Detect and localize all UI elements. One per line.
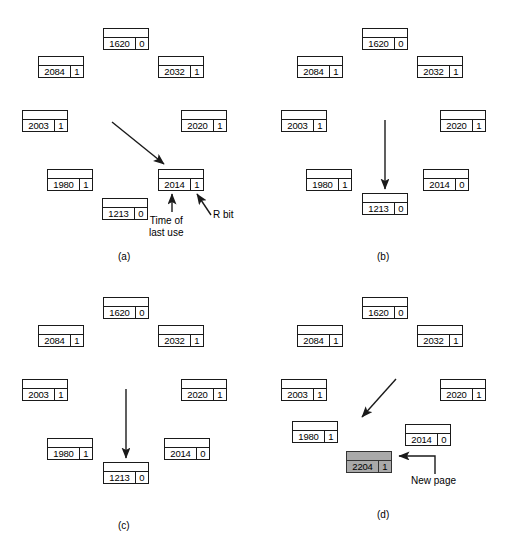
frame-bottom-row: 2084 1 (298, 66, 342, 77)
page-frame-1980: 1980 1 (47, 438, 93, 460)
frame-r-bit-value: 1 (450, 335, 462, 346)
frame-top-row (182, 111, 226, 120)
frame-bottom-row: 2032 1 (159, 66, 203, 77)
frame-top-row (23, 111, 67, 120)
frame-top-row (48, 170, 92, 179)
page-frame-2020: 2020 1 (181, 379, 227, 401)
frame-top-row (182, 380, 226, 389)
frame-time-value: 2084 (39, 66, 71, 77)
frame-r-bit-value: 1 (339, 179, 351, 190)
page-frame-2084: 2084 1 (297, 325, 343, 347)
frame-r-bit-value: 1 (314, 389, 326, 400)
frame-bottom-row: 2003 1 (282, 120, 326, 131)
frame-r-bit-value: 1 (71, 66, 83, 77)
frame-bottom-row: 1980 1 (48, 448, 92, 459)
frame-bottom-row: 1213 0 (103, 208, 147, 219)
r-bit-label: R bit (213, 209, 234, 221)
frame-r-bit-value: 1 (191, 335, 203, 346)
panel-label-d: (d) (377, 509, 389, 521)
frame-r-bit-value: 0 (136, 38, 148, 49)
frame-time-value: 2014 (424, 179, 456, 190)
frame-time-value: 1213 (363, 203, 395, 214)
page-frame-1213: 1213 0 (102, 198, 148, 220)
frame-time-value: 2084 (298, 66, 330, 77)
frame-top-row (39, 57, 83, 66)
time-of-last-use-label: Time of last use (149, 215, 183, 239)
frame-r-bit-value: 1 (450, 66, 462, 77)
frame-time-value: 2003 (282, 389, 314, 400)
frame-bottom-row: 1620 0 (363, 307, 407, 318)
frame-bottom-row: 2020 1 (182, 120, 226, 131)
frame-time-value: 2204 (347, 461, 379, 472)
frame-r-bit-value: 0 (135, 208, 147, 219)
page-frame-1980: 1980 1 (306, 169, 352, 191)
frame-time-value: 2032 (159, 335, 191, 346)
frame-time-value: 2032 (418, 335, 450, 346)
frame-top-row (159, 326, 203, 335)
page-frame-1620: 1620 0 (362, 28, 408, 50)
page-frame-2084: 2084 1 (38, 325, 84, 347)
frame-time-value: 1620 (363, 307, 395, 318)
frame-r-bit-value: 1 (473, 389, 485, 400)
frame-bottom-row: 1213 0 (363, 203, 407, 214)
page-frame-2003: 2003 1 (281, 379, 327, 401)
frame-r-bit-value: 1 (71, 335, 83, 346)
panel-d: 1620 0 2084 1 2032 1 2003 1 (259, 269, 518, 538)
frame-bottom-row: 2032 1 (418, 66, 462, 77)
frame-bottom-row: 2020 1 (441, 389, 485, 400)
frame-time-value: 1980 (293, 431, 325, 442)
frame-time-value: 1213 (104, 472, 136, 483)
page-frame-1620: 1620 0 (362, 297, 408, 319)
frame-r-bit-value: 0 (136, 307, 148, 318)
frame-r-bit-value: 1 (314, 120, 326, 131)
frame-r-bit-value: 1 (191, 66, 203, 77)
frame-time-value: 2020 (441, 120, 473, 131)
frame-top-row (23, 380, 67, 389)
frame-time-value: 2084 (39, 335, 71, 346)
frame-r-bit-value: 0 (395, 203, 407, 214)
frame-r-bit-value: 1 (80, 179, 92, 190)
new-page-label: New page (411, 475, 456, 487)
frame-time-value: 2020 (182, 389, 214, 400)
frame-time-value: 2020 (441, 389, 473, 400)
page-frame-2020: 2020 1 (181, 110, 227, 132)
frame-r-bit-value: 1 (80, 448, 92, 459)
frame-bottom-row: 1620 0 (363, 38, 407, 49)
frame-time-value: 2032 (159, 66, 191, 77)
page-frame-1980: 1980 1 (292, 421, 338, 443)
frame-r-bit-value: 0 (136, 472, 148, 483)
frame-top-row (298, 326, 342, 335)
frame-bottom-row: 2014 0 (165, 448, 209, 459)
frame-time-value: 2003 (282, 120, 314, 131)
frame-bottom-row: 2003 1 (23, 120, 67, 131)
frame-time-value: 1980 (307, 179, 339, 190)
frame-time-value: 2014 (159, 179, 191, 190)
page-frame-2084: 2084 1 (297, 56, 343, 78)
frame-top-row (104, 29, 148, 38)
frame-r-bit-value: 1 (214, 389, 226, 400)
frame-bottom-row: 2003 1 (282, 389, 326, 400)
frame-bottom-row: 2014 0 (406, 434, 450, 445)
frame-bottom-row: 2084 1 (39, 66, 83, 77)
page-frame-1620: 1620 0 (103, 28, 149, 50)
frame-top-row (282, 380, 326, 389)
frame-top-row (103, 199, 147, 208)
frame-top-row (418, 326, 462, 335)
frame-bottom-row: 2003 1 (23, 389, 67, 400)
frame-r-bit-value: 1 (191, 179, 203, 190)
frame-bottom-row: 2084 1 (298, 335, 342, 346)
page-frame-2003: 2003 1 (22, 379, 68, 401)
page-frame-2032: 2032 1 (417, 56, 463, 78)
frame-r-bit-value: 0 (438, 434, 450, 445)
frame-top-row (418, 57, 462, 66)
frame-r-bit-value: 0 (395, 38, 407, 49)
frame-top-row (307, 170, 351, 179)
frame-top-row (424, 170, 468, 179)
frame-bottom-row: 1213 0 (104, 472, 148, 483)
page-frame-2003: 2003 1 (22, 110, 68, 132)
frame-time-value: 1620 (363, 38, 395, 49)
frame-time-value: 2020 (182, 120, 214, 131)
frame-bottom-row: 2014 0 (424, 179, 468, 190)
frame-top-row (298, 57, 342, 66)
page-frame-2032: 2032 1 (158, 325, 204, 347)
